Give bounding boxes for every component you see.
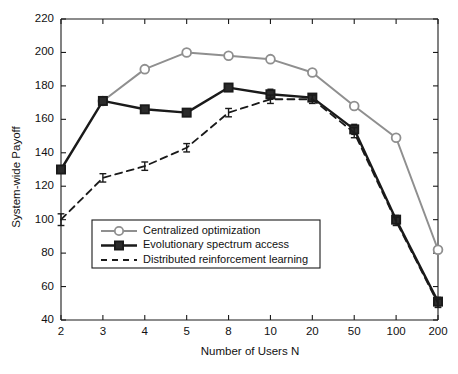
data-point-marker-square — [141, 105, 149, 113]
x-tick-label: 50 — [348, 325, 361, 337]
data-point-marker-square — [224, 83, 232, 91]
data-point-marker-circle — [224, 51, 233, 60]
x-tick-label: 8 — [225, 325, 231, 337]
data-point-marker-circle — [434, 245, 443, 254]
x-tick-label: 2 — [58, 325, 64, 337]
data-point-marker-square — [99, 97, 107, 105]
x-axis-title: Number of Users N — [201, 345, 299, 357]
y-tick-label: 80 — [41, 246, 54, 258]
legend-sample-marker-square — [115, 241, 123, 249]
y-tick-label: 180 — [35, 79, 54, 91]
y-tick-label: 220 — [35, 12, 54, 24]
x-tick-label: 20 — [306, 325, 319, 337]
y-tick-label: 120 — [35, 179, 54, 191]
x-tick-label: 4 — [142, 325, 149, 337]
data-point-marker-circle — [182, 48, 191, 57]
data-point-marker-square — [57, 165, 65, 173]
x-tick-label: 3 — [100, 325, 106, 337]
y-tick-label: 40 — [41, 313, 54, 325]
y-tick-label: 140 — [35, 146, 54, 158]
y-tick-label: 100 — [35, 213, 54, 225]
data-point-marker-circle — [140, 65, 149, 74]
legend-sample-marker-circle — [115, 227, 123, 235]
x-tick-label: 5 — [183, 325, 189, 337]
chart-container: 406080100120140160180200220 234581020501… — [0, 0, 458, 374]
y-axis-title: System-wide Payoff — [10, 125, 22, 227]
legend-label: Evolutionary spectrum access — [143, 238, 290, 250]
chart-legend: Centralized optimizationEvolutionary spe… — [92, 220, 320, 268]
data-point-marker-circle — [392, 133, 401, 142]
x-tick-label: 10 — [264, 325, 277, 337]
legend-label: Centralized optimization — [143, 224, 260, 236]
data-point-marker-circle — [308, 68, 317, 77]
x-tick-label: 200 — [428, 325, 447, 337]
y-tick-label: 160 — [35, 112, 54, 124]
data-point-marker-circle — [266, 55, 275, 64]
data-point-marker-circle — [350, 102, 359, 111]
y-tick-label: 200 — [35, 45, 54, 57]
system-wide-payoff-line-chart: 406080100120140160180200220 234581020501… — [0, 0, 458, 374]
y-tick-label: 60 — [41, 280, 54, 292]
legend-label: Distributed reinforcement learning — [143, 253, 308, 265]
x-tick-label: 100 — [387, 325, 406, 337]
data-point-marker-square — [183, 109, 191, 117]
